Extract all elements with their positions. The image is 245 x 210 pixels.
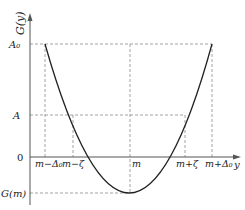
m-plus-delta0-label: m+Δ₀ [205,158,233,169]
m-minus-zeta-label: m−ζ [62,158,85,169]
guide-lines [30,44,212,193]
parabola-diagram: G(y) A₀ A 0 G(m) m−Δ₀ m−ζ m m+ζ m+Δ₀ y [0,0,245,210]
m-label: m [132,158,141,169]
m-minus-delta0-label: m−Δ₀ [35,158,63,169]
parabola-curve [45,44,212,193]
m-plus-zeta-label: m+ζ [176,158,199,169]
y-axis-arrow-icon [28,13,33,21]
y-axis-label: G(y) [14,11,27,35]
a0-label: A₀ [8,39,20,50]
origin-label: 0 [17,152,23,163]
a-label: A [12,110,20,121]
gm-label: G(m) [1,188,26,199]
x-axis-label: y [233,159,240,170]
